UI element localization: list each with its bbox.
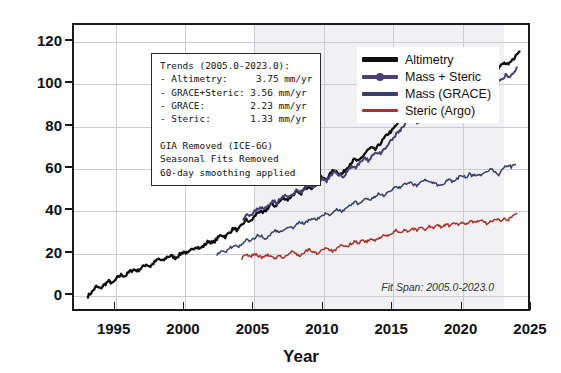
legend-swatch-altimetry-icon: [362, 53, 398, 67]
x-tick-label: 1995: [97, 320, 130, 337]
legend-item-mass-plus-steric[interactable]: Mass + Steric: [362, 68, 491, 85]
x-tick-label: 2005: [236, 320, 269, 337]
series-line-steric-argo: [242, 213, 517, 259]
x-tick-label: 2010: [305, 320, 338, 337]
legend-item-steric-argo[interactable]: Steric (Argo): [362, 102, 491, 119]
legend-label-mass-plus-steric: Mass + Steric: [405, 70, 481, 84]
trend-annotation-box: Trends (2005.0-2023.0): - Altimetry: 3.7…: [151, 53, 321, 186]
y-tick-label: 40: [45, 201, 62, 218]
x-tick-mark: [461, 302, 462, 310]
x-tick-mark: [252, 302, 253, 310]
legend: Altimetry Mass + Steric Mass (GRACE) Ste…: [357, 47, 499, 123]
x-axis-ticks: 1995200020052010201520202025: [72, 311, 530, 351]
x-tick-label: 2025: [513, 320, 546, 337]
y-tick-label: 80: [45, 116, 62, 133]
x-tick-mark: [322, 302, 323, 310]
x-tick-mark: [530, 302, 531, 310]
legend-swatch-steric-argo-icon: [362, 104, 398, 118]
y-tick-mark: [65, 39, 72, 41]
x-tick-label: 2020: [444, 320, 477, 337]
legend-label-steric-argo: Steric (Argo): [405, 104, 475, 118]
x-tick-mark: [183, 302, 184, 310]
y-tick-label: 120: [37, 31, 62, 48]
sea-level-rise-chart: Fit Span: 2005.0-2023.0 Trends (2005.0-2…: [0, 0, 561, 373]
y-tick-mark: [65, 251, 72, 253]
y-tick-mark: [65, 124, 72, 126]
x-tick-label: 2015: [375, 320, 408, 337]
legend-item-mass-grace[interactable]: Mass (GRACE): [362, 85, 491, 102]
x-tick-mark: [114, 302, 115, 310]
legend-swatch-mass-plus-steric-icon: [362, 70, 398, 84]
x-axis-title: Year: [72, 347, 530, 367]
y-tick-label: 60: [45, 159, 62, 176]
legend-item-altimetry[interactable]: Altimetry: [362, 51, 491, 68]
y-tick-mark: [65, 208, 72, 210]
y-tick-mark: [65, 166, 72, 168]
plot-area: Fit Span: 2005.0-2023.0 Trends (2005.0-2…: [72, 23, 530, 311]
y-tick-label: 0: [54, 286, 62, 303]
y-tick-label: 100: [37, 74, 62, 91]
x-tick-mark: [391, 302, 392, 310]
legend-label-mass-grace: Mass (GRACE): [405, 87, 491, 101]
y-axis-ticks: 020406080100120: [0, 23, 72, 311]
y-tick-label: 20: [45, 243, 62, 260]
y-tick-mark: [65, 81, 72, 83]
fit-span-note: Fit Span: 2005.0-2023.0: [381, 281, 494, 293]
x-tick-label: 2000: [166, 320, 199, 337]
y-tick-mark: [65, 293, 72, 295]
legend-label-altimetry: Altimetry: [405, 53, 454, 67]
legend-swatch-mass-grace-icon: [362, 87, 398, 101]
